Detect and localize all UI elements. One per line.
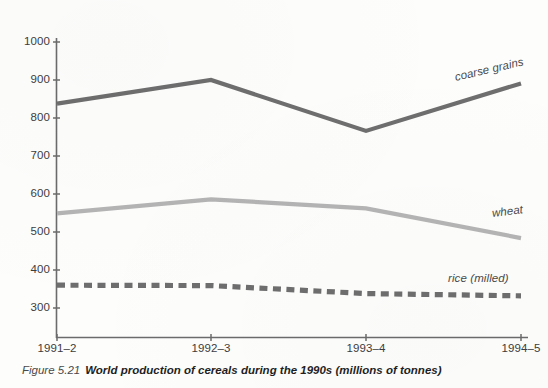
y-tick-label-600: 600 [16, 188, 50, 200]
chart-svg [0, 0, 548, 348]
y-tick-label-900: 900 [16, 74, 50, 86]
x-tick-label-1991-2: 1991–2 [38, 343, 77, 355]
y-tick-label-500: 500 [16, 226, 50, 238]
x-tick-label-1992-3: 1992–3 [192, 343, 231, 355]
figure-container: 1000 900 800 700 600 500 400 300 1991–2 … [0, 0, 548, 388]
y-axis-tick-labels: 1000 900 800 700 600 500 400 300 [12, 0, 50, 348]
figure-caption-text: World production of cereals during the 1… [85, 364, 441, 376]
x-tick-label-1993-4: 1993–4 [347, 343, 386, 355]
series-label-rice: rice (milled) [448, 273, 509, 285]
y-tick-label-1000: 1000 [16, 36, 50, 48]
chart-plot-area [0, 0, 548, 348]
x-axis-tick-labels: 1991–2 1992–3 1993–4 1994–5 [0, 343, 548, 361]
x-tick-label-1994-5: 1994–5 [502, 343, 541, 355]
series-line-coarse-grains [57, 80, 521, 131]
figure-number: Figure 5.21 [22, 364, 80, 376]
series-line-rice [57, 285, 521, 296]
y-tick-label-400: 400 [16, 264, 50, 276]
y-tick-label-800: 800 [16, 112, 50, 124]
y-tick-label-700: 700 [16, 150, 50, 162]
series-line-wheat [57, 199, 521, 238]
figure-caption: Figure 5.21World production of cereals d… [22, 364, 542, 378]
y-tick-label-300: 300 [16, 302, 50, 314]
